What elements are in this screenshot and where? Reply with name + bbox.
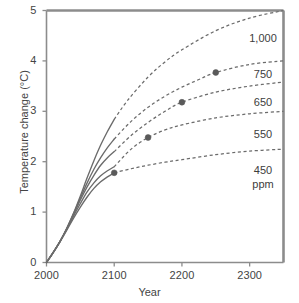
series-solid-450: [47, 173, 115, 263]
y-axis-title: Temperature change (°C): [18, 42, 30, 222]
series-solid-1000: [47, 119, 115, 262]
chart-data-markers: [111, 70, 218, 176]
series-label-value: 450: [240, 163, 286, 177]
y-tick-label: 0: [21, 256, 37, 268]
temperature-stabilization-chart: 0123452000210022002300 1,000750650550450…: [0, 0, 299, 303]
series-dotted-650: [114, 82, 283, 152]
series-label-650: 650: [240, 95, 286, 109]
series-label-value: 650: [240, 95, 286, 109]
data-marker-550: [145, 135, 151, 141]
series-label-750: 750: [240, 67, 286, 81]
series-label-value: 750: [240, 67, 286, 81]
data-marker-450: [111, 170, 117, 176]
x-tick-label: 2200: [162, 269, 202, 281]
series-label-550: 550: [240, 127, 286, 141]
x-tick-label: 2100: [94, 269, 134, 281]
series-label-value: 550: [240, 127, 286, 141]
x-tick-label: 2300: [230, 269, 270, 281]
x-axis-title: Year: [0, 286, 299, 298]
x-tick-label: 2000: [27, 269, 67, 281]
series-label-450: 450ppm: [240, 163, 286, 191]
chart-plot-area: [0, 0, 299, 303]
data-marker-750: [213, 70, 219, 76]
y-tick-label: 5: [21, 4, 37, 16]
series-label-1000: 1,000: [240, 31, 286, 45]
data-marker-650: [179, 99, 185, 105]
series-label-unit: ppm: [240, 177, 286, 191]
series-label-value: 1,000: [240, 31, 286, 45]
